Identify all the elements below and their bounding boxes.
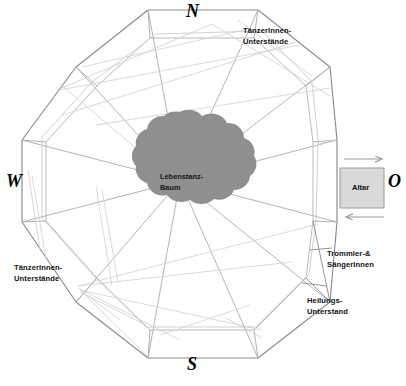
tree-canopy-label: Lebenstanz- Baum	[160, 172, 203, 193]
label-dancer-shelters-ne: TänzerInnen- Unterstände	[243, 26, 291, 47]
compass-east: O	[388, 172, 401, 190]
diagram-canvas: N W O S Lebenstanz- Baum Altar TänzerInn…	[0, 0, 406, 386]
compass-north: N	[186, 2, 199, 20]
compass-south: S	[187, 355, 197, 373]
label-drummers-singers: Trommler-& SängerInnen	[327, 249, 374, 270]
label-dancer-shelters-sw: TänzerInnen- Unterstände	[14, 263, 62, 284]
compass-west: W	[6, 172, 22, 190]
altar-label: Altar	[352, 183, 369, 192]
arena-plan-svg	[0, 0, 406, 386]
label-healing-shelter: Heilungs- Unterstand	[307, 296, 348, 317]
